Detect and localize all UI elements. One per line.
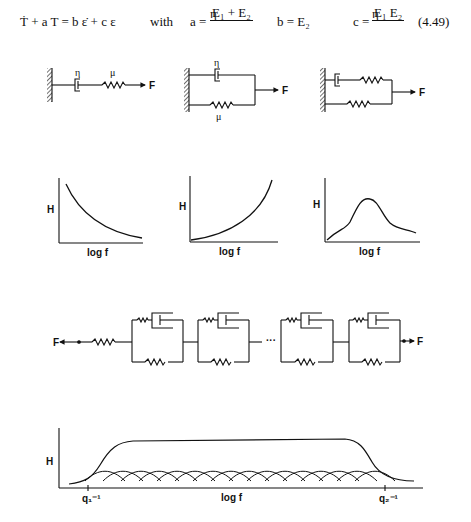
kv-eta-label: η <box>214 57 219 68</box>
plot3-ylabel: H <box>313 199 320 210</box>
plot2-ylabel: H <box>179 201 186 212</box>
chain-ellipsis: ··· <box>266 335 276 346</box>
maxwell-model <box>47 68 145 102</box>
chain-right-force: F <box>417 336 423 347</box>
plot-spectrum <box>59 428 423 491</box>
spectrum-q2-tick: q₂⁻¹ <box>379 493 399 504</box>
sls-force-label: F <box>419 87 425 98</box>
spectrum-xlabel: log f <box>221 492 243 503</box>
kelvin-voigt-model <box>184 68 278 112</box>
plot2-xlabel: log f <box>219 246 241 257</box>
plot1-xlabel: log f <box>87 247 109 258</box>
kv-force-label: F <box>282 85 288 96</box>
plot1-ylabel: H <box>47 204 54 215</box>
chain-left-force: F <box>53 337 59 348</box>
plot-peak <box>325 178 420 242</box>
plot3-xlabel: log f <box>359 246 381 257</box>
plot-decreasing <box>59 178 143 243</box>
chain-model <box>60 313 414 365</box>
spectrum-ylabel: H <box>46 456 53 467</box>
kv-mu-label: μ <box>216 111 221 122</box>
maxwell-eta-label: η <box>75 67 80 78</box>
spectrum-q1-tick: q₁⁻¹ <box>82 493 101 504</box>
maxwell-mu-label: μ <box>110 67 115 78</box>
standard-linear-solid-model <box>320 68 415 112</box>
maxwell-force-label: F <box>149 80 155 91</box>
plot-increasing <box>190 176 278 242</box>
figure-canvas: η μ F η μ F F H log f H log f H log f F … <box>0 0 471 522</box>
